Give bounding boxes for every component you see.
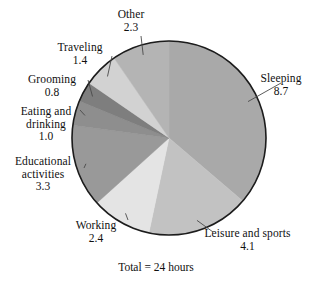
slice-label-leisure-value: 4.1 bbox=[190, 240, 305, 253]
slice-label-other-value: 2.3 bbox=[100, 21, 162, 34]
slice-label-sleeping-value: 8.7 bbox=[252, 85, 310, 98]
slice-label-sleeping-name: Sleeping bbox=[252, 72, 310, 85]
slice-label-working-value: 2.4 bbox=[60, 232, 132, 245]
slice-label-grooming: Grooming 0.8 bbox=[14, 73, 90, 98]
slice-label-grooming-value: 0.8 bbox=[14, 86, 90, 99]
slice-label-working: Working 2.4 bbox=[60, 219, 132, 244]
pie-chart-figure: Other 2.3 Traveling 1.4 Grooming 0.8 Eat… bbox=[0, 0, 312, 285]
slice-label-educational-line1: Educational bbox=[2, 155, 84, 168]
slice-label-educational-activities: Educational activities 3.3 bbox=[2, 155, 84, 193]
slice-label-eating-value: 1.0 bbox=[8, 130, 84, 143]
slice-label-other-name: Other bbox=[100, 8, 162, 21]
slice-label-grooming-name: Grooming bbox=[14, 73, 90, 86]
slice-label-traveling-name: Traveling bbox=[44, 41, 116, 54]
slice-label-sleeping: Sleeping 8.7 bbox=[252, 72, 310, 97]
slice-label-other: Other 2.3 bbox=[100, 8, 162, 33]
slice-label-educational-line2: activities bbox=[2, 168, 84, 181]
slice-label-traveling-value: 1.4 bbox=[44, 54, 116, 67]
slice-label-leisure-and-sports: Leisure and sports 4.1 bbox=[190, 227, 305, 252]
pie-slice-group bbox=[72, 41, 266, 235]
slice-label-eating-and-drinking: Eating and drinking 1.0 bbox=[8, 105, 84, 143]
slice-label-eating-line1: Eating and bbox=[8, 105, 84, 118]
slice-label-working-name: Working bbox=[60, 219, 132, 232]
slice-label-traveling: Traveling 1.4 bbox=[44, 41, 116, 66]
slice-label-leisure-name: Leisure and sports bbox=[190, 227, 305, 240]
chart-total-caption: Total = 24 hours bbox=[0, 261, 312, 273]
slice-label-educational-value: 3.3 bbox=[2, 180, 84, 193]
slice-label-eating-line2: drinking bbox=[8, 118, 84, 131]
